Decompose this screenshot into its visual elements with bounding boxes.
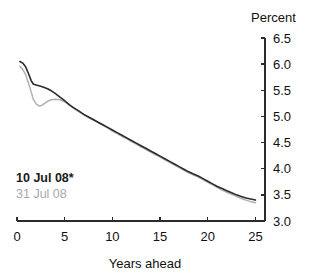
y-axis-tick-label: 4.0: [273, 161, 291, 176]
y-axis-tick-label: 5.5: [273, 83, 291, 98]
legend-item-primary: 10 Jul 08*: [16, 171, 74, 185]
x-axis-title: Years ahead: [109, 256, 182, 271]
x-axis-tick-label: 5: [61, 229, 68, 244]
y-axis-tick-label: 6.5: [273, 31, 291, 46]
chart-container: Percent 3.03.54.04.55.05.56.06.5 0510152…: [0, 0, 313, 274]
x-axis-tick-label: 20: [201, 229, 215, 244]
legend-item-secondary: 31 Jul 08: [16, 187, 67, 201]
y-axis-tick-label: 4.5: [273, 135, 291, 150]
x-axis-tick-label: 25: [248, 229, 262, 244]
yield-curve-chart: Percent 3.03.54.04.55.05.56.06.5 0510152…: [0, 0, 313, 274]
x-axis-tick-label: 10: [105, 229, 119, 244]
x-axis-tick-label: 15: [153, 229, 167, 244]
x-axis-tick-label: 0: [13, 229, 20, 244]
y-axis-tick-label: 6.0: [273, 57, 291, 72]
y-axis-tick-label: 3.0: [273, 214, 291, 229]
y-axis-tick-label: 5.0: [273, 109, 291, 124]
y-axis-tick-label: 3.5: [273, 187, 291, 202]
y-axis-title: Percent: [251, 10, 296, 25]
